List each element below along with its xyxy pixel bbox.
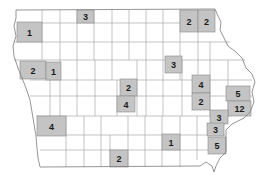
shaded-county: 2 — [198, 10, 215, 32]
shaded-county: 4 — [37, 116, 66, 136]
county-count-label: 2 — [198, 97, 203, 107]
shaded-county: 3 — [165, 56, 182, 73]
county-count-label: 4 — [198, 80, 203, 90]
county-count-label: 5 — [214, 141, 219, 151]
shaded-county: 2 — [20, 61, 46, 79]
county-count-label: 2 — [186, 17, 191, 27]
shaded-county: 2 — [180, 10, 198, 32]
shaded-county: 2 — [192, 93, 210, 110]
county-count-label: 3 — [83, 12, 88, 22]
shaded-county: 3 — [207, 123, 224, 136]
shaded-county: 2 — [110, 150, 128, 167]
county-count-label: 2 — [30, 66, 35, 76]
shaded-county: 1 — [162, 134, 180, 150]
county-count-label: 1 — [168, 138, 173, 148]
county-count-label: 1 — [51, 67, 56, 77]
shaded-county: 4 — [192, 75, 210, 93]
county-count-label: 2 — [126, 83, 131, 93]
county-count-label: 12 — [234, 104, 244, 114]
county-count-label: 1 — [27, 28, 32, 38]
shaded-county: 12 — [228, 101, 251, 116]
iowa-county-map: 31222132442512335412 — [0, 0, 265, 186]
shaded-counties: 31222132442512335412 — [17, 10, 251, 167]
county-count-label: 4 — [123, 100, 128, 110]
county-count-label: 3 — [171, 60, 176, 70]
shaded-county: 3 — [210, 110, 228, 124]
county-count-label: 2 — [116, 154, 121, 164]
shaded-county: 1 — [46, 62, 61, 80]
shaded-county: 4 — [117, 96, 135, 112]
shaded-county: 1 — [17, 22, 42, 42]
county-count-label: 5 — [235, 89, 240, 99]
county-count-label: 2 — [204, 17, 209, 27]
county-count-label: 3 — [213, 125, 218, 135]
shaded-county: 5 — [226, 86, 250, 101]
shaded-county: 2 — [120, 79, 137, 96]
shaded-county: 5 — [208, 137, 226, 154]
county-count-label: 3 — [216, 113, 221, 123]
shaded-county: 3 — [77, 10, 94, 23]
county-count-label: 4 — [49, 122, 54, 132]
